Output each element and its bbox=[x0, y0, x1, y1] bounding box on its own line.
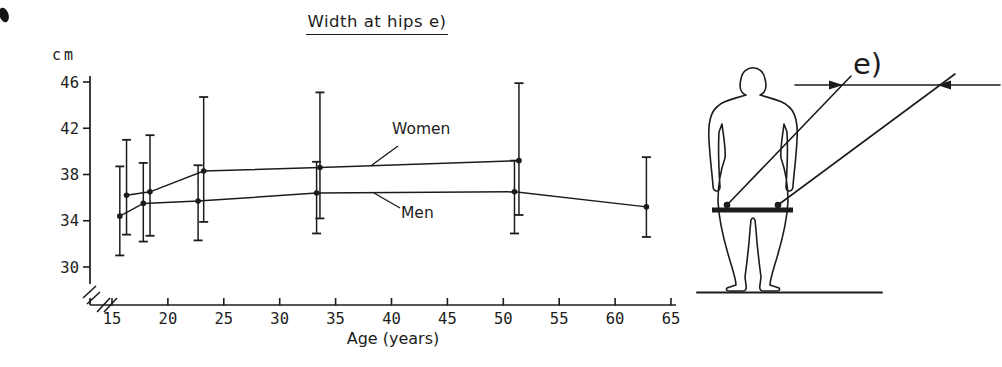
women-data-point bbox=[317, 165, 323, 171]
scanned-figure-page: 46423834301520253035404550556065 bbox=[0, 0, 1002, 367]
dimension-label: e) bbox=[853, 47, 882, 81]
chart-title-wrap: Width at hips e) bbox=[277, 12, 477, 35]
x-axis-label: Age (years) bbox=[313, 329, 473, 348]
x-tick-label: 15 bbox=[103, 310, 122, 328]
seat-board bbox=[712, 208, 793, 213]
y-tick-label: 38 bbox=[60, 166, 79, 184]
men-data-point bbox=[644, 204, 650, 210]
x-tick-label: 55 bbox=[550, 310, 569, 328]
men-data-point bbox=[117, 213, 123, 219]
x-tick-label: 25 bbox=[214, 310, 233, 328]
men-label-leader bbox=[374, 193, 400, 208]
women-series-label: Women bbox=[392, 120, 450, 138]
scan-smudge bbox=[0, 6, 11, 23]
x-tick-label: 60 bbox=[606, 310, 625, 328]
x-tick-label: 40 bbox=[382, 310, 401, 328]
men-data-point bbox=[141, 201, 147, 207]
women-label-leader bbox=[372, 146, 398, 165]
chart-title: Width at hips e) bbox=[306, 12, 449, 35]
person-silhouette bbox=[709, 68, 797, 291]
data-series bbox=[115, 83, 651, 255]
women-data-point bbox=[147, 189, 153, 195]
x-tick-label: 20 bbox=[159, 310, 178, 328]
women-data-point bbox=[124, 193, 130, 199]
y-tick-label: 42 bbox=[60, 120, 79, 138]
y-tick-label: 46 bbox=[60, 74, 79, 92]
men-series-label: Men bbox=[401, 204, 434, 222]
men-data-point bbox=[195, 198, 201, 204]
measurement-illustration: e) bbox=[688, 40, 1002, 327]
x-tick-label: 35 bbox=[326, 310, 345, 328]
men-data-point bbox=[314, 190, 320, 196]
women-series-line bbox=[127, 161, 519, 196]
arrow-right-icon bbox=[829, 81, 843, 90]
y-tick-label: 34 bbox=[60, 212, 79, 230]
men-data-point bbox=[512, 189, 518, 195]
y-axis-unit-label: cm bbox=[52, 46, 76, 64]
y-axis-break-icon bbox=[83, 286, 100, 304]
extension-line-right bbox=[778, 74, 955, 205]
y-tick-label: 30 bbox=[60, 259, 79, 277]
x-tick-label: 45 bbox=[438, 310, 457, 328]
x-tick-label: 65 bbox=[662, 310, 681, 328]
x-tick-label: 30 bbox=[270, 310, 289, 328]
x-tick-label: 50 bbox=[494, 310, 513, 328]
women-data-point bbox=[201, 168, 207, 174]
